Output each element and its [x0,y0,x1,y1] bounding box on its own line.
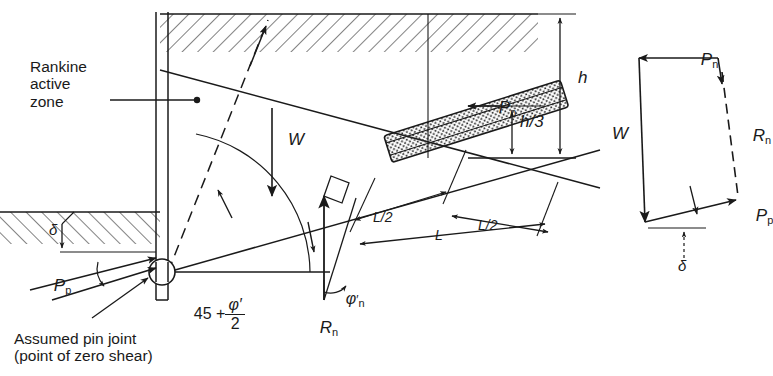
polygon-W-label: W [612,124,628,143]
dredge-soil-hatch [0,212,160,244]
Pn-symbol: P [499,98,510,117]
angle-45-text: 45 + [194,305,226,322]
right-angle-marker [324,176,349,203]
angle-formula: 45 +φ′2 [176,278,245,351]
main-diagram [0,12,738,318]
Pn-subscript: n [510,106,516,118]
fraction-denominator: 2 [225,314,244,333]
delta-label-left: δ [49,222,57,239]
polygon-W [639,58,645,222]
polygon-Pn-subscript: n [712,58,718,70]
length-half-right-label: L/2 [478,218,497,234]
rankine-active-zone-label: Rankine active zone [30,58,87,110]
polygon-delta-label: δ [678,258,686,275]
phi-subscript: n [358,297,364,309]
polygon-Pp-symbol: P [756,206,767,225]
phi-symbol: φ [346,290,356,307]
polygon-Pn-symbol: P [701,50,712,69]
fraction-numerator: φ′ [225,296,244,314]
retained-soil-hatch [160,14,538,52]
length-dimensions [350,150,558,244]
Pp-symbol: P [54,276,65,295]
Pp-subscript: p [65,284,71,296]
polygon-Pp [645,200,736,222]
anchor-force-label: Pn [481,80,516,136]
length-full-label: L [435,228,443,244]
polygon-Pp-label: Pp [738,188,773,244]
polygon-Rn-label: Rn [735,108,771,164]
passive-force-label: Pp [36,258,71,314]
polygon-Pn-label: Pn [683,32,718,88]
polygon-Pp-subscript: p [767,214,773,226]
polygon-Rn-subscript: n [765,134,771,146]
weight-label: W [288,130,304,149]
sheet-pile-wall [156,12,168,300]
angle-arc-45 [196,134,310,272]
length-half-left-label: L/2 [373,210,392,226]
height-third-label: h/3 [520,112,544,131]
phi-over-2-fraction: φ′2 [225,296,244,333]
phi-n-label: φ′n [328,272,365,327]
pinjoint-leader [92,278,148,318]
pin-joint-label: Assumed pin joint (point of zero shear) [14,330,153,365]
height-label: h [578,68,587,87]
pin-joint-circle [149,259,175,285]
polygon-Rn-symbol: R [753,126,765,145]
Rn-subscript: n [332,326,338,338]
